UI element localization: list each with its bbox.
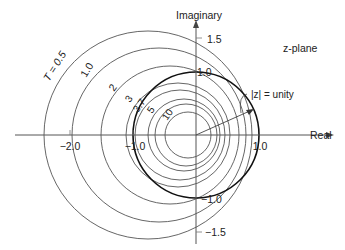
imaginary-axis-label: Imaginary (176, 9, 223, 21)
radius-vector (196, 110, 252, 135)
x-tick-label-1: 1.0 (253, 140, 268, 152)
contour-label-1-0: 1.0 (78, 60, 96, 79)
x-tick-label-neg1: −1.0 (125, 140, 146, 152)
contour-label-0-5: T = 0.5 (41, 49, 69, 83)
x-tick-label-neg2: −2.0 (60, 140, 81, 152)
contour-label-10: 10 (160, 106, 176, 122)
unit-circle-label: |z| = unity (251, 89, 294, 100)
y-tick-label-1: 1.0 (197, 66, 212, 78)
y-tick-label-1-5: 1.5 (207, 33, 222, 45)
y-tick-label-neg1: −1.0 (201, 193, 222, 205)
imaginary-axis-arrow-icon (193, 20, 199, 28)
z-plane-diagram: −2.0 −1.0 1.0 1.5 1.0 −1.0 −1.5 Imaginar… (0, 0, 345, 250)
y-tick-label-neg1-5: −1.5 (205, 226, 226, 238)
z-plane-label: z-plane (283, 42, 318, 54)
real-axis-label: Real (310, 129, 332, 141)
